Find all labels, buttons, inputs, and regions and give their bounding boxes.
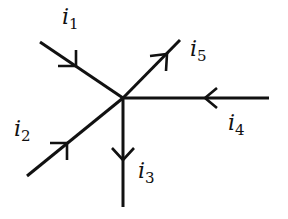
junction-wires <box>0 0 288 219</box>
branch-i1-wire <box>40 42 123 98</box>
label-i1-sub: 1 <box>69 15 79 33</box>
label-i2-base: i <box>14 116 21 141</box>
label-i2: i2 <box>14 118 31 144</box>
current-junction-diagram: i1 i2 i3 i4 i5 <box>0 0 288 219</box>
label-i2-sub: 2 <box>21 127 31 145</box>
label-i3-sub: 3 <box>145 169 155 187</box>
label-i5-base: i <box>190 36 197 61</box>
label-i4-sub: 4 <box>235 121 245 139</box>
branch-i5-wire <box>123 40 180 98</box>
branch-i2-wire <box>27 98 123 176</box>
label-i3-base: i <box>138 158 145 183</box>
label-i1: i1 <box>62 6 79 32</box>
label-i1-base: i <box>62 4 69 29</box>
label-i4: i4 <box>228 112 245 138</box>
label-i4-base: i <box>228 110 235 135</box>
label-i3: i3 <box>138 160 155 186</box>
label-i5-sub: 5 <box>197 47 207 65</box>
label-i5: i5 <box>190 38 207 64</box>
